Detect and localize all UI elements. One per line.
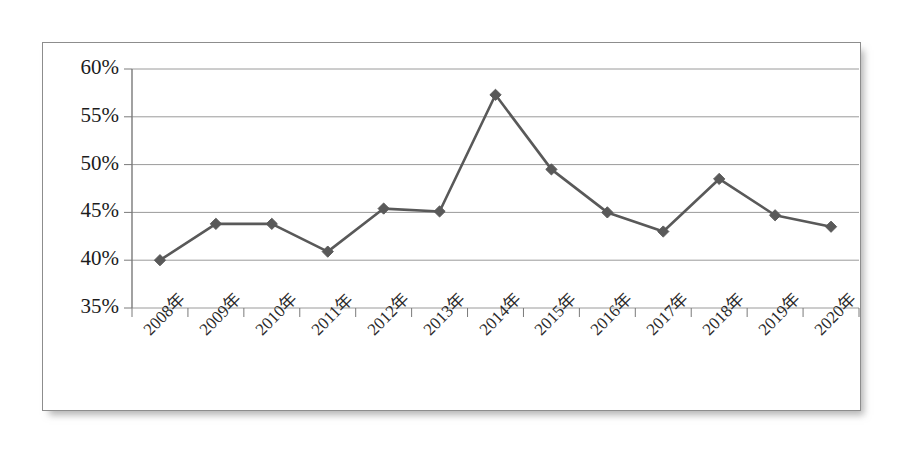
chart-figure: 60%55%50%45%40%35% 2008年2009年2010年2011年2…	[0, 0, 923, 449]
chart-frame: 60%55%50%45%40%35% 2008年2009年2010年2011年2…	[42, 42, 861, 411]
data-line	[160, 95, 831, 260]
data-point-marker	[825, 221, 836, 232]
plot-area: 60%55%50%45%40%35% 2008年2009年2010年2011年2…	[43, 43, 862, 412]
y-axis-tick-label: 35%	[81, 294, 120, 319]
data-point-marker	[434, 206, 445, 217]
y-axis-tick-label: 50%	[81, 151, 120, 176]
line-chart-canvas	[43, 43, 862, 412]
y-axis-tick-label: 40%	[81, 246, 120, 271]
data-point-marker	[266, 218, 277, 229]
data-markers	[154, 89, 836, 266]
y-axis-tick-label: 60%	[81, 55, 120, 80]
y-axis-tick-label: 55%	[81, 103, 120, 128]
y-axis-tick-label: 45%	[81, 198, 120, 223]
